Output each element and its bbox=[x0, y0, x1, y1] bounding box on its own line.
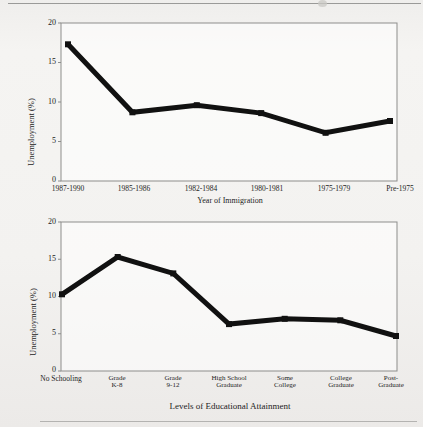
page-bottom-rule bbox=[40, 421, 417, 422]
plot-frame bbox=[61, 23, 397, 181]
data-point-marker bbox=[65, 41, 71, 47]
x-axis-title: Levels of Educational Attainment bbox=[110, 402, 350, 411]
data-point-marker bbox=[387, 118, 393, 124]
data-point-marker bbox=[282, 316, 288, 322]
y-tick-label-20: 20 bbox=[34, 19, 56, 27]
y-tick-label-15: 15 bbox=[34, 255, 56, 263]
page-top-rule bbox=[8, 3, 421, 4]
y-tick-label-5: 5 bbox=[34, 329, 56, 337]
data-point-marker bbox=[337, 317, 343, 323]
x-tick-label-pre-1975: Pre-1975 bbox=[361, 185, 423, 193]
y-tick-label-15: 15 bbox=[34, 58, 56, 66]
education-plot-area bbox=[0, 208, 423, 423]
data-point-marker bbox=[170, 270, 176, 276]
data-point-marker bbox=[194, 102, 200, 108]
chart-education: Unemployment (%) 20 15 10 5 0 No Schooli… bbox=[0, 208, 423, 423]
y-tick-label-20: 20 bbox=[34, 218, 56, 226]
scan-artifact bbox=[318, 0, 327, 7]
plot-frame bbox=[61, 222, 397, 371]
chart-immigration: Unemployment (%) 20 15 10 5 0 1987-1990 … bbox=[0, 10, 423, 210]
data-point-marker bbox=[393, 333, 399, 339]
data-point-marker bbox=[258, 110, 264, 116]
data-point-marker bbox=[59, 291, 65, 297]
data-point-marker bbox=[129, 109, 135, 115]
data-point-marker bbox=[226, 321, 232, 327]
scanned-page: Unemployment (%) 20 15 10 5 0 1987-1990 … bbox=[0, 0, 423, 427]
y-tick-label-5: 5 bbox=[34, 137, 56, 145]
x-axis-title: Year of Immigration bbox=[120, 197, 340, 205]
immigration-plot-area bbox=[0, 10, 423, 210]
y-tick-label-10: 10 bbox=[34, 292, 56, 300]
data-point-marker bbox=[323, 130, 329, 136]
data-point-marker bbox=[115, 254, 121, 260]
y-axis-title: Unemployment (%) bbox=[26, 98, 36, 166]
y-tick-label-10: 10 bbox=[34, 98, 56, 106]
x-tick-label-post-graduate: Post- Graduate bbox=[352, 375, 423, 390]
